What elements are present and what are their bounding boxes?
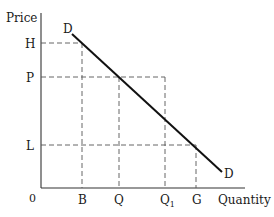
price-label-l: L xyxy=(26,139,34,153)
demand-curve xyxy=(72,34,222,172)
price-label-h: H xyxy=(25,37,35,51)
quantity-label-g: G xyxy=(192,193,202,207)
quantity-label-q1: Q1 xyxy=(160,193,175,209)
x-axis-label: Quantity xyxy=(218,193,271,207)
quantity-label-q1-main: Q xyxy=(160,193,170,207)
origin-label: 0 xyxy=(29,192,36,205)
quantity-label-q1-subscript: 1 xyxy=(170,200,175,209)
quantity-label-b: B xyxy=(78,193,87,207)
y-axis-label: Price xyxy=(6,11,37,25)
demand-diagram: Price Quantity 0 H P L B Q Q1 G D D xyxy=(0,0,274,217)
demand-label-start: D xyxy=(63,22,73,36)
price-label-p: P xyxy=(26,71,34,85)
quantity-label-q: Q xyxy=(114,193,124,207)
demand-label-end: D xyxy=(224,167,234,181)
